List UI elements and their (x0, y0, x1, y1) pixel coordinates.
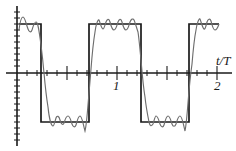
figure-canvas: t/T 1 2 (0, 0, 236, 151)
xtick-label-1: 1 (113, 78, 120, 93)
axes-group (6, 6, 232, 146)
x-axis-label: t/T (216, 53, 231, 68)
xtick-label-2: 2 (214, 78, 221, 93)
gibbs-phenomenon-figure: t/T 1 2 (0, 0, 236, 151)
